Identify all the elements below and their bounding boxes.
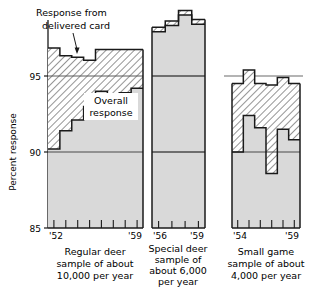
panel1-caption-line1: Regular deer bbox=[64, 246, 125, 257]
panel3-caption-line2: sample of about bbox=[227, 258, 304, 269]
panel2-x-label-last: '59 bbox=[190, 231, 204, 241]
percent-response-chart: 95 90 85 Percent response bbox=[0, 0, 319, 289]
panel2-caption-line3: about 6,000 bbox=[149, 265, 207, 276]
y-axis-title: Percent response bbox=[8, 113, 18, 191]
y-tick-label-95: 95 bbox=[30, 72, 41, 82]
annotation-overall-response-line1: Overall bbox=[94, 95, 128, 106]
panel1-x-label-first: '52 bbox=[49, 231, 63, 241]
annotation-overall-response: Overall response bbox=[84, 93, 138, 120]
panel2-overall-response-area bbox=[152, 15, 205, 228]
panel-special-deer: '56 '59 Special deer sample of about 6,0… bbox=[149, 10, 208, 287]
panel2-caption-line4: per year bbox=[158, 276, 198, 287]
annotation-delivered-card-line1: Response from bbox=[36, 7, 107, 18]
panel3-x-label-last: '59 bbox=[285, 231, 299, 241]
panel3-x-label-first: '54 bbox=[233, 231, 247, 241]
panel2-caption-line1: Special deer bbox=[149, 243, 208, 254]
panel2-caption-line2: sample of bbox=[155, 254, 202, 265]
annotation-delivered-card-line2: delivered card bbox=[42, 20, 110, 31]
panel1-x-label-last: '59 bbox=[128, 231, 142, 241]
y-tick-label-90: 90 bbox=[30, 148, 42, 158]
panel2-x-label-first: '56 bbox=[153, 231, 167, 241]
panel3-caption-line3: 4,000 per year bbox=[231, 270, 301, 281]
panel1-caption-line3: 10,000 per year bbox=[57, 270, 133, 281]
annotation-overall-response-line2: response bbox=[89, 107, 132, 118]
panel3-caption-line1: Small game bbox=[238, 246, 295, 257]
y-tick-label-85: 85 bbox=[30, 224, 41, 234]
panel1-caption-line2: sample of about bbox=[56, 258, 133, 269]
